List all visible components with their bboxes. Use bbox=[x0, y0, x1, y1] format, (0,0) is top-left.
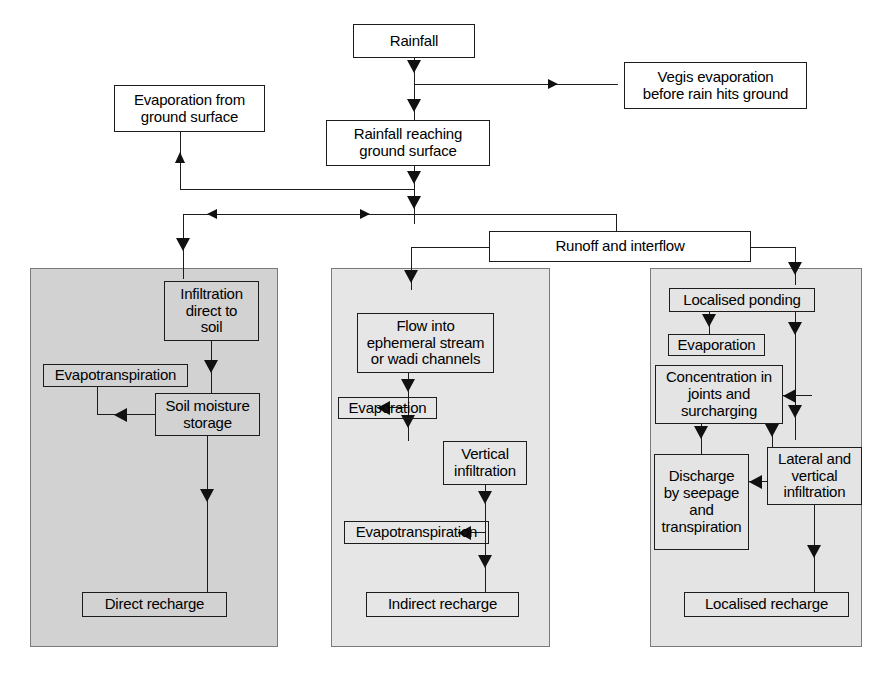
node-evaporation-right-label: Evaporation bbox=[678, 337, 756, 354]
node-evapotranspiration-left[interactable]: Evapotranspiration bbox=[43, 364, 188, 387]
arrowhead-lateral-to-discharge bbox=[749, 475, 762, 489]
node-evaporation-ground-surface-label: Evaporation from ground surface bbox=[134, 92, 245, 126]
arrowhead-soilmoisture-to-direct-recharge bbox=[200, 489, 214, 502]
node-localised-ponding[interactable]: Localised ponding bbox=[669, 288, 815, 312]
arrowhead-to-concentration bbox=[783, 389, 796, 403]
arrowhead-distribution-left bbox=[207, 209, 217, 219]
node-localised-recharge[interactable]: Localised recharge bbox=[684, 592, 849, 617]
node-evapotranspiration-mid-label: Evapotranspiration bbox=[356, 524, 477, 541]
flowchart-diagram: Rainfall Vegis evaporation before rain h… bbox=[0, 0, 892, 674]
arrowhead-runoff-to-right bbox=[788, 262, 802, 275]
node-runoff-interflow[interactable]: Runoff and interflow bbox=[489, 231, 751, 262]
arrowhead-lateral-to-localised-recharge bbox=[807, 545, 821, 558]
node-rainfall-reaching-ground[interactable]: Rainfall reaching ground surface bbox=[326, 120, 490, 166]
connector-runoff-to-right bbox=[751, 247, 796, 248]
node-flow-into-ephemeral-label: Flow into ephemeral stream or wadi chann… bbox=[367, 318, 485, 368]
arrowhead-vertical-infiltration-down-2 bbox=[478, 555, 492, 568]
node-soil-moisture-storage-label: Soil moisture storage bbox=[165, 398, 249, 432]
node-vegis-evaporation-label: Vegis evaporation before rain hits groun… bbox=[643, 69, 789, 103]
node-rainfall[interactable]: Rainfall bbox=[353, 24, 475, 58]
arrowhead-ephemeral-down-1 bbox=[401, 379, 415, 392]
node-lateral-vertical-infiltration-label: Lateral and vertical infiltration bbox=[778, 451, 851, 501]
node-direct-recharge[interactable]: Direct recharge bbox=[82, 592, 227, 617]
node-vertical-infiltration-label: Vertical infiltration bbox=[454, 446, 516, 480]
arrowhead-concentration-to-discharge bbox=[694, 426, 708, 439]
arrowhead-infiltration-to-soil-moisture bbox=[204, 360, 218, 373]
node-flow-into-ephemeral[interactable]: Flow into ephemeral stream or wadi chann… bbox=[357, 313, 494, 373]
connector-runoff-to-mid-drop bbox=[411, 247, 412, 290]
node-concentration-joints[interactable]: Concentration in joints and surcharging bbox=[655, 365, 783, 424]
node-indirect-recharge[interactable]: Indirect recharge bbox=[366, 592, 519, 617]
node-evapotranspiration-mid[interactable]: Evapotranspiration bbox=[344, 521, 489, 544]
arrowhead-feedback-up-evaporation bbox=[175, 152, 185, 163]
arrowhead-rainfall-down-2 bbox=[407, 99, 421, 112]
connector-runoff-to-mid bbox=[411, 247, 490, 248]
node-runoff-interflow-label: Runoff and interflow bbox=[555, 238, 684, 255]
node-soil-moisture-storage[interactable]: Soil moisture storage bbox=[155, 393, 260, 436]
node-discharge-seepage-label: Discharge by seepage and transpiration bbox=[662, 468, 742, 535]
node-lateral-vertical-infiltration[interactable]: Lateral and vertical infiltration bbox=[767, 447, 862, 505]
node-infiltration-direct-soil[interactable]: Infiltration direct to soil bbox=[164, 281, 259, 341]
connector-distribution-right bbox=[414, 214, 617, 215]
node-direct-recharge-label: Direct recharge bbox=[105, 596, 205, 613]
node-evaporation-ground-surface[interactable]: Evaporation from ground surface bbox=[114, 85, 265, 132]
arrowhead-vertical-infiltration-down-1 bbox=[478, 491, 492, 504]
arrowhead-ponding-to-evaporation bbox=[702, 314, 716, 327]
connector-rainfall-down-2 bbox=[414, 74, 415, 120]
node-concentration-joints-label: Concentration in joints and surcharging bbox=[666, 369, 772, 419]
arrowhead-distribution-right bbox=[360, 209, 370, 219]
node-rainfall-label: Rainfall bbox=[390, 33, 438, 50]
arrowhead-rainfall-down-1 bbox=[407, 60, 421, 73]
connector-left-column-drop-2 bbox=[183, 255, 184, 279]
node-infiltration-direct-soil-label: Infiltration direct to soil bbox=[180, 286, 243, 336]
connector-rainfall-to-vegis bbox=[414, 84, 618, 85]
arrowhead-runoff-to-mid bbox=[404, 270, 418, 283]
node-evaporation-mid-label: Evaporation bbox=[349, 400, 427, 417]
node-vertical-infiltration[interactable]: Vertical infiltration bbox=[443, 441, 527, 485]
connector-distribution-left bbox=[183, 214, 414, 215]
arrowhead-soilmoisture-to-evapotrans bbox=[114, 408, 127, 422]
arrowhead-rainfall-to-vegis bbox=[548, 79, 558, 89]
connector-feedback-horizontal bbox=[180, 189, 415, 190]
node-localised-ponding-label: Localised ponding bbox=[683, 292, 801, 309]
arrowhead-ponding-right-branch-1 bbox=[788, 322, 802, 335]
arrowhead-reaching-down-2 bbox=[407, 196, 421, 209]
connector-evapotrans-left-riser bbox=[97, 387, 98, 415]
connector-to-runoff-box bbox=[616, 214, 617, 232]
arrowhead-left-column-drop bbox=[176, 238, 190, 251]
node-evaporation-mid[interactable]: Evaporation bbox=[338, 397, 437, 419]
node-vegis-evaporation[interactable]: Vegis evaporation before rain hits groun… bbox=[624, 62, 807, 109]
connector-to-concentration-stub bbox=[811, 395, 812, 396]
node-rainfall-reaching-ground-label: Rainfall reaching ground surface bbox=[354, 126, 462, 160]
arrowhead-ponding-right-branch-2 bbox=[788, 405, 802, 418]
connector-soilmoisture-to-direct-recharge bbox=[207, 436, 208, 592]
node-evapotranspiration-left-label: Evapotranspiration bbox=[55, 367, 176, 384]
node-discharge-seepage[interactable]: Discharge by seepage and transpiration bbox=[654, 454, 749, 550]
node-indirect-recharge-label: Indirect recharge bbox=[388, 596, 497, 613]
node-localised-recharge-label: Localised recharge bbox=[705, 596, 828, 613]
node-evaporation-right[interactable]: Evaporation bbox=[668, 334, 765, 356]
arrowhead-reaching-down-1 bbox=[407, 171, 421, 184]
arrowhead-concentration-to-lateral bbox=[765, 424, 779, 437]
